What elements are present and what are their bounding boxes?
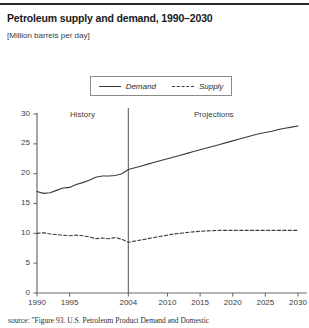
- y-tick-label: 25: [8, 138, 30, 147]
- x-tick-label: 1995: [50, 298, 90, 307]
- y-tick-label: 20: [8, 168, 30, 177]
- source-note: source: "Figure 93. U.S. Petroleum Produ…: [8, 316, 209, 325]
- annotation-projections: Projections: [194, 110, 234, 119]
- y-tick-label: 10: [8, 228, 30, 237]
- dashed-line-icon: [172, 86, 194, 87]
- annotation-history: History: [70, 110, 95, 119]
- chart-legend: Demand Supply: [90, 76, 232, 96]
- y-tick-label: 30: [8, 109, 30, 118]
- chart-plot-area: [0, 0, 309, 328]
- solid-line-icon: [99, 86, 121, 87]
- chart-units-subtitle: [Million barrels per day]: [7, 31, 90, 40]
- legend-label-supply: Supply: [199, 82, 223, 91]
- legend-item-supply: Supply: [172, 82, 223, 91]
- x-tick-label: 2004: [108, 298, 148, 307]
- top-divider-rule: [0, 3, 309, 5]
- y-tick-label: 0: [8, 288, 30, 297]
- x-tick-label: 2030: [278, 298, 309, 307]
- legend-label-demand: Demand: [126, 82, 156, 91]
- legend-item-demand: Demand: [99, 82, 156, 91]
- page-title: Petroleum supply and demand, 1990–2030: [7, 12, 213, 24]
- y-tick-label: 5: [8, 258, 30, 267]
- y-tick-label: 15: [8, 198, 30, 207]
